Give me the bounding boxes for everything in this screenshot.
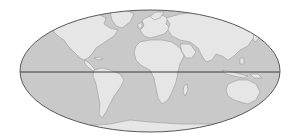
world-map-svg [0, 0, 290, 139]
antarctica [20, 120, 280, 139]
new-zealand [268, 100, 272, 110]
world-map [0, 0, 290, 139]
philippines [240, 58, 244, 64]
